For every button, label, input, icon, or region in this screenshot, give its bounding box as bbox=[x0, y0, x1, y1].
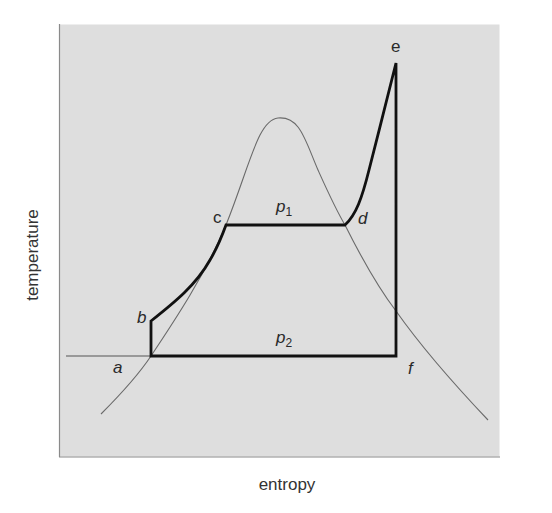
point-label-a: a bbox=[113, 358, 122, 377]
p1-base: p bbox=[275, 197, 285, 216]
y-axis-label: temperature bbox=[23, 209, 42, 301]
p2-base: p bbox=[275, 328, 285, 347]
p2-subscript: 2 bbox=[285, 336, 292, 350]
p1-subscript: 1 bbox=[285, 205, 292, 219]
plot-panel bbox=[60, 25, 500, 457]
point-label-d: d bbox=[358, 209, 368, 228]
point-label-e: e bbox=[391, 37, 400, 56]
point-label-c: c bbox=[213, 208, 222, 227]
x-axis-label: entropy bbox=[259, 475, 316, 494]
point-label-b: b bbox=[137, 308, 146, 327]
ts-diagram: a b c d e f p1 p2 entropy temperature bbox=[0, 0, 552, 513]
